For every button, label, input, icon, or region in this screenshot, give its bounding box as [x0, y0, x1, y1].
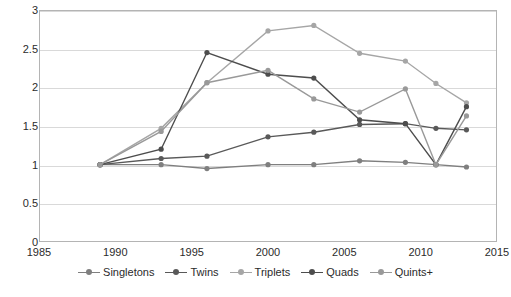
series-line: [100, 25, 466, 164]
legend-marker-icon: [230, 267, 252, 277]
line-chart: 00.511.522.53 19851990199520002005201020…: [0, 0, 511, 297]
series-quintsplus: [97, 68, 469, 168]
data-point: [403, 58, 408, 63]
data-point: [311, 162, 316, 167]
data-point: [204, 154, 209, 159]
data-point: [159, 156, 164, 161]
series-twins: [97, 121, 469, 167]
data-point: [311, 75, 316, 80]
legend-item[interactable]: Quads: [301, 266, 358, 278]
legend-item[interactable]: Twins: [165, 266, 218, 278]
data-point: [433, 126, 438, 131]
series-line: [100, 53, 466, 165]
data-point: [357, 51, 362, 56]
legend-marker-icon: [165, 267, 187, 277]
data-point: [464, 104, 469, 109]
data-point: [357, 158, 362, 163]
chart-legend: SingletonsTwinsTripletsQuadsQuints+: [0, 266, 511, 278]
legend-item[interactable]: Quints+: [370, 266, 433, 278]
data-point: [204, 80, 209, 85]
data-point: [265, 134, 270, 139]
data-point: [464, 127, 469, 132]
legend-label: Twins: [190, 266, 218, 278]
data-point: [97, 162, 102, 167]
series-line: [100, 124, 466, 165]
data-point: [464, 113, 469, 118]
data-point: [433, 162, 438, 167]
data-point: [403, 121, 408, 126]
legend-label: Quads: [326, 266, 358, 278]
data-point: [357, 109, 362, 114]
data-point: [204, 50, 209, 55]
data-point: [311, 23, 316, 28]
data-point: [265, 162, 270, 167]
legend-item[interactable]: Singletons: [78, 266, 154, 278]
data-point: [265, 68, 270, 73]
data-point: [159, 147, 164, 152]
legend-label: Triplets: [255, 266, 291, 278]
legend-label: Quints+: [395, 266, 433, 278]
legend-marker-icon: [78, 267, 100, 277]
legend-label: Singletons: [103, 266, 154, 278]
data-point: [357, 117, 362, 122]
series-line: [100, 161, 466, 169]
data-point: [204, 166, 209, 171]
data-point: [159, 162, 164, 167]
data-series-layer: [0, 0, 511, 297]
legend-marker-icon: [370, 267, 392, 277]
data-point: [265, 28, 270, 33]
data-point: [433, 81, 438, 86]
legend-marker-icon: [301, 267, 323, 277]
series-triplets: [97, 23, 469, 167]
data-point: [403, 86, 408, 91]
data-point: [464, 164, 469, 169]
series-singletons: [97, 158, 469, 171]
data-point: [357, 122, 362, 127]
legend-item[interactable]: Triplets: [230, 266, 291, 278]
data-point: [311, 96, 316, 101]
data-point: [403, 160, 408, 165]
data-point: [311, 130, 316, 135]
data-point: [159, 129, 164, 134]
